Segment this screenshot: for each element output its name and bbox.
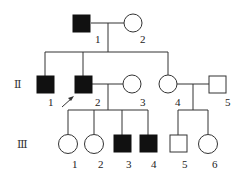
label-III-5: 5 xyxy=(182,158,188,170)
unaffected-female-II-4 xyxy=(159,75,177,93)
label-II-2: 2 xyxy=(95,96,101,108)
label-III-3: 3 xyxy=(126,158,132,170)
label-III-6: 6 xyxy=(212,158,218,170)
label-II-4: 4 xyxy=(175,96,181,108)
label-II-1: 1 xyxy=(48,96,54,108)
generation-label-III: Ⅲ xyxy=(17,138,28,150)
unaffected-female-III-2 xyxy=(85,135,104,154)
label-III-4: 4 xyxy=(151,158,157,170)
unaffected-female-I-2 xyxy=(124,14,142,32)
label-III-2: 2 xyxy=(98,158,104,170)
affected-male-III-3 xyxy=(114,135,131,152)
unaffected-female-II-3 xyxy=(123,75,141,93)
affected-male-II-2 xyxy=(75,76,92,93)
unaffected-male-II-5 xyxy=(209,76,226,93)
label-II-5: 5 xyxy=(225,96,231,108)
label-III-1: 1 xyxy=(72,158,78,170)
generation-label-II: Ⅱ xyxy=(14,78,21,90)
proband-arrow-icon xyxy=(62,96,74,107)
affected-male-II-1 xyxy=(37,76,54,93)
label-I-1: 1 xyxy=(95,33,101,45)
generation-1 xyxy=(45,23,168,76)
unaffected-female-III-6 xyxy=(199,135,218,154)
affected-male-I-1 xyxy=(73,15,90,32)
affected-male-III-4 xyxy=(140,135,157,152)
pedigree-diagram: 1 2 Ⅱ 1 2 3 4 5 Ⅲ 1 2 3 4 5 6 xyxy=(0,0,244,186)
unaffected-male-III-5 xyxy=(170,135,187,152)
label-II-3: 3 xyxy=(140,96,146,108)
label-I-2: 2 xyxy=(140,33,146,45)
unaffected-female-III-1 xyxy=(59,135,78,154)
